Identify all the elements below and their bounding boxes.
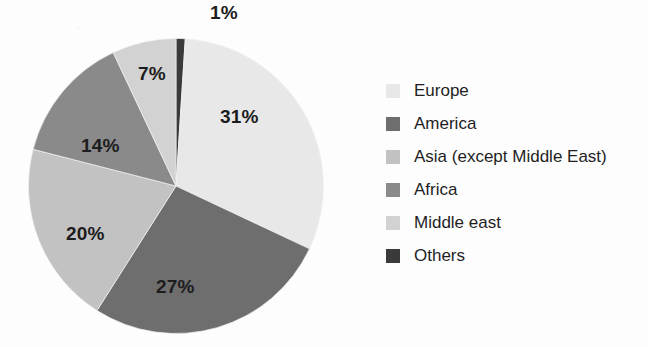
slice-label-middle-east: 7% [138, 63, 166, 85]
legend-item-others[interactable]: Others [386, 239, 636, 272]
slice-label-africa: 14% [81, 135, 120, 157]
legend-label-others: Others [414, 247, 465, 264]
legend-item-africa[interactable]: Africa [386, 173, 636, 206]
legend-swatch-europe [386, 84, 400, 98]
slice-label-america: 27% [156, 276, 195, 298]
legend-label-africa: Africa [414, 181, 457, 198]
legend-item-middle-east[interactable]: Middle east [386, 206, 636, 239]
legend-swatch-others [386, 249, 400, 263]
legend-item-america[interactable]: America [386, 107, 636, 140]
legend-swatch-asia-except-middle-east [386, 150, 400, 164]
pie-chart: 1% 31% 27% 20% 14% 7% [28, 38, 324, 334]
legend-swatch-africa [386, 183, 400, 197]
slice-label-europe: 31% [220, 106, 259, 128]
slice-label-others: 1% [210, 2, 238, 24]
pie-chart-figure: 1% 31% 27% 20% 14% 7% EuropeAmericaAsia … [0, 0, 648, 347]
slice-label-asia: 20% [66, 223, 105, 245]
legend-label-america: America [414, 115, 476, 132]
legend: EuropeAmericaAsia (except Middle East)Af… [386, 74, 636, 272]
legend-swatch-america [386, 117, 400, 131]
legend-label-asia-except-middle-east: Asia (except Middle East) [414, 148, 607, 165]
legend-item-europe[interactable]: Europe [386, 74, 636, 107]
legend-item-asia-except-middle-east[interactable]: Asia (except Middle East) [386, 140, 636, 173]
legend-label-europe: Europe [414, 82, 469, 99]
legend-label-middle-east: Middle east [414, 214, 501, 231]
legend-swatch-middle-east [386, 216, 400, 230]
